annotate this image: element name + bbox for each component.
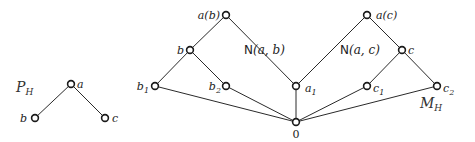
node-b (32, 115, 39, 122)
node-b2 (223, 83, 230, 90)
region-label-nac: N(a, c) (340, 43, 380, 57)
node-a1 (293, 83, 300, 90)
node-label-b: b (20, 112, 27, 125)
node-b (187, 47, 194, 54)
edge-a-b (35, 84, 71, 118)
node-ab (223, 12, 230, 19)
node-label-a: a (77, 78, 84, 91)
node-label-b: b (177, 44, 184, 57)
node-label-ab: a(b) (198, 9, 220, 22)
node-zero (293, 119, 300, 126)
edges (35, 15, 437, 122)
node-c2 (434, 83, 441, 90)
node-c (102, 115, 109, 122)
edge-b1-zero (155, 86, 296, 122)
poset-name-left: PH (15, 79, 33, 97)
node-label-ac: a(c) (376, 9, 397, 22)
node-c1 (364, 83, 371, 90)
node-c (399, 47, 406, 54)
node-ac (364, 12, 371, 19)
poset-name-right: MH (419, 95, 442, 113)
labels: abcPHa(b)bb1b2a10a(c)cc1c2MHN(a, b)N(a, … (15, 9, 454, 141)
node-label-zero: 0 (293, 128, 300, 141)
node-label-c1: c1 (373, 82, 384, 97)
node-label-a1: a1 (305, 82, 317, 97)
node-label-c2: c2 (443, 82, 454, 97)
edge-b2-zero (226, 86, 296, 122)
node-label-b2: b2 (209, 80, 221, 95)
node-label-c: c (408, 44, 414, 57)
edge-b-b1 (155, 50, 190, 86)
node-a (68, 81, 75, 88)
node-label-c: c (112, 112, 118, 125)
nodes (32, 12, 441, 126)
region-label-nab: N(a, b) (244, 43, 285, 57)
edge-c2-zero (296, 86, 437, 122)
lattice-diagram: abcPHa(b)bb1b2a10a(c)cc1c2MHN(a, b)N(a, … (0, 0, 475, 142)
node-label-b1: b1 (137, 80, 149, 95)
node-b1 (152, 83, 159, 90)
